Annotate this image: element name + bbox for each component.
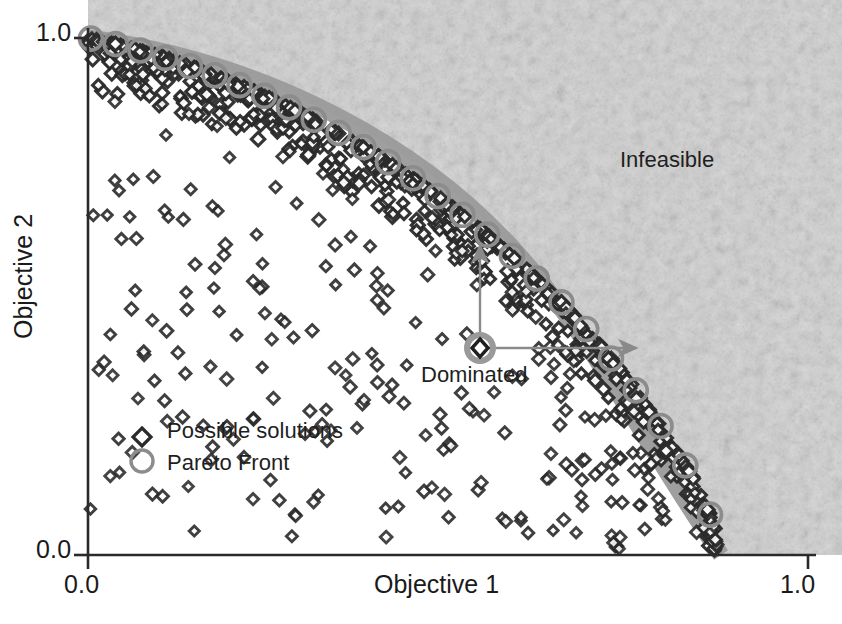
y-axis-tick-max: 1.0 xyxy=(36,18,71,47)
scatter-point xyxy=(564,368,575,379)
scatter-point xyxy=(545,371,557,383)
scatter-point xyxy=(352,423,363,434)
scatter-point xyxy=(116,233,127,244)
scatter-point xyxy=(125,212,135,222)
x-axis-tick-min: 0.0 xyxy=(64,570,99,599)
scatter-point xyxy=(265,474,276,485)
scatter-point xyxy=(213,206,223,216)
scatter-point xyxy=(146,488,158,500)
scatter-point xyxy=(224,152,234,162)
scatter-point xyxy=(576,491,586,501)
scatter-point xyxy=(189,258,201,270)
scatter-point xyxy=(381,503,391,513)
scatter-point xyxy=(383,390,395,402)
scatter-point xyxy=(130,285,141,296)
scatter-point xyxy=(386,379,398,391)
scatter-point xyxy=(410,317,420,327)
scatter-point xyxy=(558,514,570,526)
scatter-point xyxy=(159,395,171,407)
scatter-point xyxy=(499,427,511,439)
scatter-point xyxy=(113,433,124,444)
plot-canvas xyxy=(0,0,842,624)
scatter-point xyxy=(181,287,192,298)
scatter-point xyxy=(209,263,220,274)
scatter-point xyxy=(548,359,559,370)
scatter-point xyxy=(372,377,384,389)
scatter-point xyxy=(398,397,410,409)
scatter-point xyxy=(348,264,360,276)
pareto-front-chart: 1.0 0.0 0.0 1.0 Objective 1 Objective 2 … xyxy=(0,0,842,624)
scatter-point xyxy=(214,306,224,316)
scatter-point xyxy=(257,259,267,269)
scatter-point xyxy=(642,483,654,495)
scatter-point xyxy=(455,387,467,399)
scatter-point xyxy=(556,392,566,402)
legend-marker-possible-solutions xyxy=(133,428,151,446)
scatter-point xyxy=(321,404,332,415)
infeasible-region-label: Infeasible xyxy=(620,147,714,173)
scatter-point xyxy=(576,368,587,379)
scatter-point xyxy=(247,493,258,504)
scatter-point xyxy=(489,387,500,398)
scatter-point xyxy=(422,269,434,281)
scatter-point xyxy=(128,174,138,184)
scatter-point xyxy=(607,474,618,485)
scatter-point xyxy=(185,184,196,195)
scatter-point xyxy=(382,285,393,296)
scatter-point xyxy=(172,347,184,359)
scatter-point xyxy=(231,330,242,341)
scatter-point xyxy=(540,319,551,330)
dominated-point-label: Dominated xyxy=(421,362,527,388)
scatter-point xyxy=(266,334,277,345)
scatter-point xyxy=(371,359,383,371)
scatter-point xyxy=(434,408,446,420)
scatter-point xyxy=(400,468,410,478)
scatter-point xyxy=(181,304,193,316)
scatter-point xyxy=(180,368,191,379)
scatter-point xyxy=(366,181,378,193)
scatter-point xyxy=(329,239,341,251)
scatter-point xyxy=(257,362,267,372)
scatter-point xyxy=(628,448,639,459)
scatter-point xyxy=(209,283,219,293)
scatter-point xyxy=(554,419,566,431)
legend-label-possible-solutions: Possible solutions xyxy=(167,418,343,444)
scatter-point xyxy=(616,497,628,509)
scatter-point xyxy=(365,241,376,252)
scatter-point xyxy=(437,333,448,344)
scatter-point xyxy=(434,225,444,235)
scatter-point xyxy=(346,231,357,242)
scatter-point xyxy=(274,494,285,505)
scatter-point xyxy=(545,448,556,459)
scatter-point xyxy=(436,422,448,434)
legend-marker-pareto-front xyxy=(131,450,153,472)
x-axis-tick-max: 1.0 xyxy=(780,570,815,599)
legend-label-pareto-front: Pareto Front xyxy=(167,450,289,476)
scatter-point xyxy=(331,280,341,290)
scatter-point xyxy=(189,526,199,536)
scatter-point xyxy=(478,410,490,422)
scatter-point xyxy=(251,132,264,145)
dominated-point-marker xyxy=(467,335,493,361)
scatter-point xyxy=(160,325,173,338)
scatter-point xyxy=(248,109,259,120)
scatter-point xyxy=(606,446,616,456)
scatter-point xyxy=(347,353,359,365)
scatter-point xyxy=(133,393,143,403)
scatter-point xyxy=(288,332,299,343)
scatter-point xyxy=(571,528,581,538)
scatter-point xyxy=(329,362,341,374)
scatter-point xyxy=(690,488,700,498)
scatter-point xyxy=(251,229,261,239)
scatter-point xyxy=(380,531,392,543)
scatter-point xyxy=(401,360,411,370)
scatter-point xyxy=(394,451,406,463)
scatter-point xyxy=(562,383,573,394)
scatter-point xyxy=(577,501,588,512)
scatter-point xyxy=(221,373,233,385)
scatter-point xyxy=(430,245,441,256)
scatter-point xyxy=(161,56,172,67)
scatter-point xyxy=(344,381,356,393)
y-axis-title: Objective 2 xyxy=(9,207,38,347)
scatter-point xyxy=(420,430,431,441)
